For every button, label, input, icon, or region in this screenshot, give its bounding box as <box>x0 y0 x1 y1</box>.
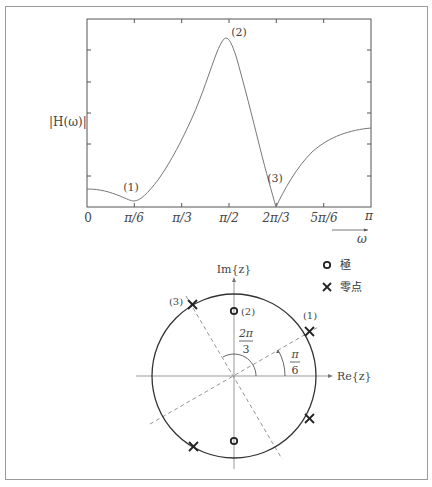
xtick-label-pi3: π/3 <box>171 211 192 225</box>
svg-text:2π: 2π <box>238 327 254 340</box>
angle-label-2pi3: 2π 3 <box>238 327 254 356</box>
re-axis-label: Re{z} <box>337 370 372 383</box>
xtick-label-pi: π <box>364 209 374 223</box>
annotation-1: (1) <box>123 181 139 194</box>
im-axis-label: Im{z} <box>217 263 252 276</box>
magnitude-plot: |H(ω)| 0 π/6 π/3 π/2 2π/3 5π/6 π ω (1) (… <box>49 19 374 246</box>
re-arrowhead-icon <box>328 374 333 378</box>
x-axis-label: ω <box>357 232 367 246</box>
legend-pole-icon <box>324 262 330 268</box>
xtick-label-5pi6: 5π/6 <box>310 211 338 225</box>
y-ticks <box>87 50 371 176</box>
legend-zero-label: 零点 <box>340 281 362 294</box>
point-label-2: (2) <box>241 306 255 317</box>
pole-zero-plot: Im{z} Re{z} 2π 3 π 6 <box>136 258 372 469</box>
arc-pi6 <box>278 350 285 376</box>
zero-marker-1-conj <box>305 414 314 423</box>
legend: 極 零点 <box>323 258 362 294</box>
svg-text:π: π <box>290 348 299 361</box>
xtick-label-pi6: π/6 <box>123 211 144 225</box>
annotation-3: (3) <box>267 172 283 185</box>
angle-label-pi6: π 6 <box>290 348 300 377</box>
svg-text:3: 3 <box>243 343 250 356</box>
zero-marker-1 <box>305 327 314 336</box>
xtick-label-0: 0 <box>84 211 92 225</box>
zero-marker-3 <box>188 300 197 309</box>
plot-frame <box>87 19 371 207</box>
y-axis-label: |H(ω)| <box>49 115 87 129</box>
im-arrowhead-icon <box>232 277 236 282</box>
point-label-3: (3) <box>169 296 183 307</box>
xtick-label-pi2: π/2 <box>218 211 239 225</box>
legend-pole-label: 極 <box>340 258 351 272</box>
figure-canvas: |H(ω)| 0 π/6 π/3 π/2 2π/3 5π/6 π ω (1) (… <box>0 0 432 487</box>
x-ticks <box>134 19 323 207</box>
svg-text:6: 6 <box>292 364 299 377</box>
annotation-2: (2) <box>231 26 247 39</box>
arc-2pi3 <box>223 354 256 376</box>
zero-marker-3-conj <box>189 442 198 451</box>
point-label-1: (1) <box>303 310 317 321</box>
legend-zero-icon <box>323 283 331 291</box>
xtick-label-2pi3: 2π/3 <box>261 211 290 225</box>
